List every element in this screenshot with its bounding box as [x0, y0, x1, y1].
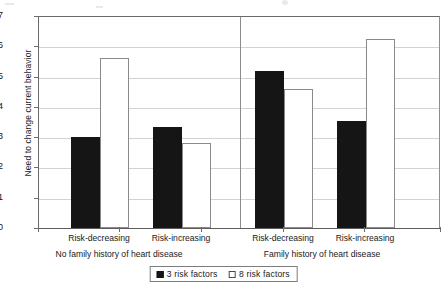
x-axis-category-label: Risk-increasing: [305, 233, 425, 243]
bar-hollow-group4: [366, 39, 395, 228]
bar-hollow-group2: [182, 143, 211, 228]
bar-filled-group2: [153, 127, 182, 228]
y-axis-tick-label: 3: [0, 131, 3, 141]
legend-label: 8 risk factors: [239, 269, 290, 279]
y-axis-tick-label: 2: [0, 161, 3, 171]
y-axis-tick-label: 7: [0, 10, 3, 20]
panel-group-label: No family history of heart disease: [9, 249, 229, 259]
legend-label: 3 risk factors: [167, 269, 218, 279]
x-axis-tick-mark: [201, 227, 202, 232]
bar-filled-group1: [71, 137, 100, 228]
bar-chart: Need to change current behavior 76543210…: [0, 0, 447, 290]
bar-filled-group4: [337, 121, 366, 229]
y-axis-tick-label: 5: [0, 71, 3, 81]
legend-item: 3 risk factors: [156, 269, 217, 279]
x-axis-tick-mark: [364, 227, 365, 232]
scan-artifact: [96, 6, 103, 8]
plot-area: [38, 16, 440, 228]
x-axis-tick-mark: [283, 227, 284, 232]
y-axis-title: Need to change current behavior: [23, 23, 33, 203]
panel-divider: [240, 17, 241, 229]
scan-artifact: [282, 0, 288, 5]
legend-swatch-hollow: [229, 271, 236, 278]
y-axis-tick-label: 1: [0, 192, 3, 202]
y-axis-tick-label: 0: [0, 222, 3, 232]
x-axis-tick-mark: [440, 227, 441, 232]
x-axis-tick-mark: [38, 227, 39, 232]
x-axis-line: [38, 228, 440, 229]
panel-group-label: Family history of heart disease: [212, 249, 432, 259]
y-axis-tick-label: 6: [0, 40, 3, 50]
legend-swatch-filled: [156, 271, 163, 278]
legend-item: 8 risk factors: [229, 269, 290, 279]
x-axis-tick-mark: [119, 227, 120, 232]
y-axis-tick-label: 4: [0, 101, 3, 111]
chart-legend: 3 risk factors8 risk factors: [149, 266, 298, 282]
scan-artifact: [5, 3, 14, 5]
bar-hollow-group1: [100, 58, 129, 228]
bar-hollow-group3: [284, 89, 313, 228]
bar-filled-group3: [255, 71, 284, 228]
